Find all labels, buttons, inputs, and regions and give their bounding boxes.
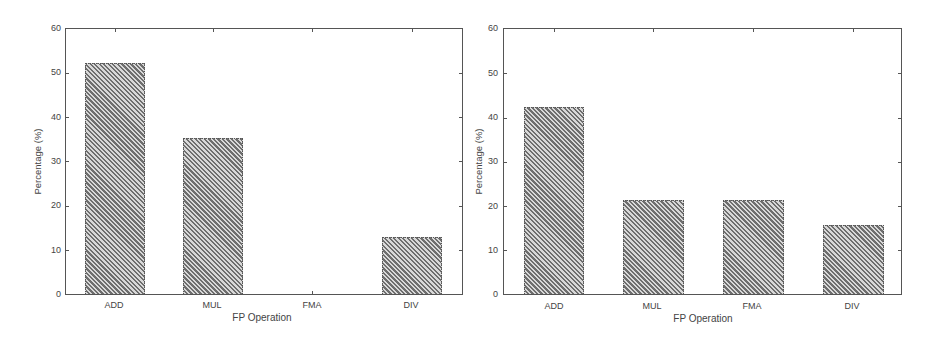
chart-right: Percentage (%) 0 10 20 30 40 50 60 ADD M… — [0, 0, 935, 337]
plot-area — [503, 28, 902, 295]
bar-div — [823, 225, 884, 294]
x-tick-label: FMA — [722, 301, 782, 311]
x-tick-label: DIV — [822, 301, 882, 311]
bar-mul — [623, 200, 684, 294]
y-tick-label: 30 — [478, 156, 498, 166]
bar-fma — [723, 200, 784, 294]
bar-add — [524, 107, 584, 294]
y-tick-label: 60 — [478, 23, 498, 33]
y-tick-label: 50 — [478, 68, 498, 78]
y-tick-label: 20 — [478, 201, 498, 211]
y-tick-label: 40 — [478, 112, 498, 122]
x-axis-label: FP Operation — [643, 313, 763, 324]
x-tick-label: MUL — [622, 301, 682, 311]
y-tick-label: 10 — [478, 245, 498, 255]
x-tick-label: ADD — [524, 301, 584, 311]
y-tick-label: 0 — [478, 289, 498, 299]
